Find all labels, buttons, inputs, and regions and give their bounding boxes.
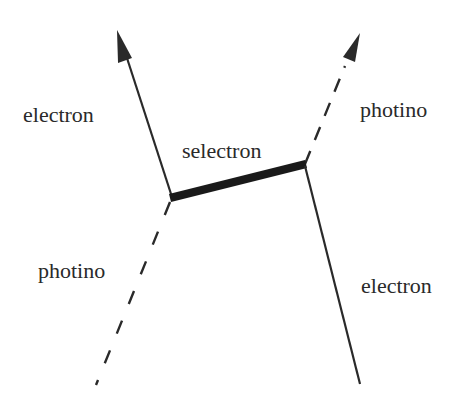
photino-outgoing-line [305, 66, 345, 164]
label-photino-incoming: photino [38, 260, 105, 282]
arrowhead-icon [117, 30, 132, 63]
label-selectron: selectron [182, 140, 261, 162]
electron-incoming-line [305, 166, 360, 384]
feynman-diagram [0, 0, 473, 411]
label-photino-outgoing: photino [360, 99, 427, 121]
label-electron-incoming: electron [361, 275, 432, 297]
selectron-propagator-line [170, 164, 306, 198]
label-electron-outgoing: electron [23, 104, 94, 126]
electron-outgoing-line [126, 55, 172, 197]
arrowhead-icon [343, 33, 360, 62]
photino-incoming-line [96, 202, 170, 385]
